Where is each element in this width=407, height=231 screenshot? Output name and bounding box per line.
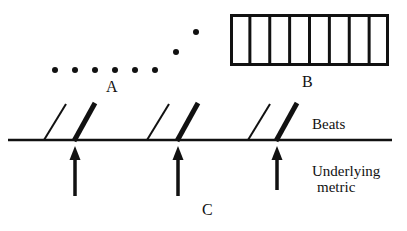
label-b: B	[302, 73, 313, 90]
attack-dot-6	[152, 67, 158, 73]
label-c: C	[202, 201, 213, 218]
attack-dot-3	[92, 67, 98, 73]
arrow-2-head	[173, 146, 184, 160]
attack-dot-4	[112, 67, 118, 73]
arrow-3-head	[272, 146, 283, 160]
beat-slash-thin-3	[147, 104, 169, 140]
attack-dot-8	[193, 29, 199, 35]
label-underlying-metric: Underlyingmetric	[312, 163, 380, 195]
attack-dot-2	[72, 67, 78, 73]
metric-arrows-group	[70, 146, 283, 196]
attack-dot-1	[52, 67, 58, 73]
beat-slash-thick-2	[74, 103, 95, 141]
rhythm-metric-figure: A B C Beats Underlyingmetric	[0, 0, 407, 231]
attack-dot-5	[132, 67, 138, 73]
beat-slashes-group	[44, 103, 297, 141]
beat-slash-thin-5	[248, 104, 270, 140]
beat-slash-thin-1	[44, 104, 66, 140]
eight-cell-grid-group	[232, 16, 388, 65]
attack-point-dots-group	[52, 29, 199, 73]
label-underlying-metric-line1: Underlying	[312, 163, 380, 179]
label-underlying-metric-line2: metric	[312, 179, 380, 195]
arrow-1-head	[70, 146, 81, 160]
label-beats: Beats	[312, 116, 345, 132]
beat-slash-thick-6	[276, 103, 297, 141]
label-a: A	[106, 78, 118, 95]
figure-canvas	[0, 0, 407, 231]
beat-slash-thick-4	[177, 103, 198, 141]
attack-dot-7	[173, 49, 179, 55]
